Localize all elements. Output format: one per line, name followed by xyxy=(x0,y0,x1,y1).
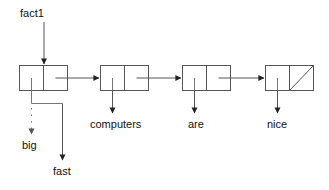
diagram-canvas: fact1 big fast computers are nice xyxy=(0,0,329,190)
car-branch-path-1 xyxy=(32,91,63,104)
cons-cell-4 xyxy=(266,66,314,91)
linked-list-diagram xyxy=(0,0,329,190)
label-fast: fast xyxy=(53,165,71,177)
nil-slash-icon xyxy=(290,66,314,91)
label-are: are xyxy=(188,118,204,130)
cons-cell-3 xyxy=(183,66,231,91)
cons-cell-1 xyxy=(20,66,68,91)
pointer-label-fact1: fact1 xyxy=(20,7,44,19)
label-nice: nice xyxy=(267,118,287,130)
label-computers: computers xyxy=(90,118,141,130)
cons-cell-2 xyxy=(101,66,149,91)
label-big: big xyxy=(22,139,37,151)
